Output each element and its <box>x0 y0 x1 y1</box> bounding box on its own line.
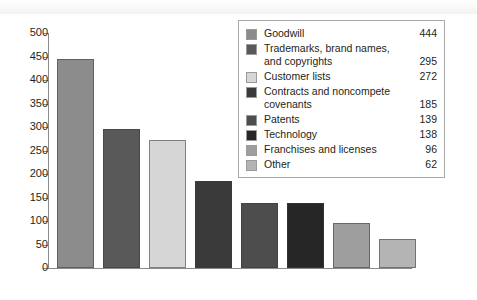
legend-swatch-icon <box>246 87 257 98</box>
y-axis-tick-label-row: 350 <box>0 98 48 109</box>
y-axis-tick-label: 100 <box>12 215 48 226</box>
legend-item-label: Franchises and licenses <box>264 143 407 156</box>
legend-item-value: 62 <box>407 158 437 171</box>
y-axis-tick-label: 200 <box>12 168 48 179</box>
legend-item-value: 444 <box>407 27 437 40</box>
legend-item-value: 295 <box>407 55 437 68</box>
legend-item: Franchises and licenses96 <box>246 143 437 156</box>
legend-item: Technology138 <box>246 128 437 141</box>
legend-item-value: 139 <box>407 113 437 126</box>
legend-item-value: 138 <box>407 128 437 141</box>
legend-item-value: 272 <box>407 70 437 83</box>
y-axis-tick-label-row: 250 <box>0 145 48 156</box>
chart-legend: Goodwill444Trademarks, brand names, and … <box>238 20 445 178</box>
bar <box>103 129 140 268</box>
bar <box>195 181 232 268</box>
legend-item-label: Trademarks, brand names, and copyrights <box>264 42 407 68</box>
chart-figure: 050100150200250300350400450500 Goodwill4… <box>0 0 477 300</box>
legend-item-label: Technology <box>264 128 407 141</box>
legend-item-label: Patents <box>264 113 407 126</box>
y-axis-line <box>48 33 49 269</box>
legend-swatch-icon <box>246 115 257 126</box>
y-axis-tick-label: 450 <box>12 51 48 62</box>
legend-item: Other62 <box>246 158 437 171</box>
legend-item-label: Customer lists <box>264 70 407 83</box>
legend-item: Goodwill444 <box>246 27 437 40</box>
bar <box>287 203 324 268</box>
legend-swatch-icon <box>246 160 257 171</box>
legend-swatch-icon <box>246 72 257 83</box>
y-axis-tick-label-row: 0 <box>0 262 48 273</box>
legend-item: Customer lists272 <box>246 70 437 83</box>
y-axis-tick-label-row: 150 <box>0 192 48 203</box>
y-axis-tick-label: 50 <box>12 239 48 250</box>
y-axis-tick-label: 400 <box>12 74 48 85</box>
legend-item-value: 96 <box>407 143 437 156</box>
bar <box>241 203 278 268</box>
bar <box>149 140 186 268</box>
legend-rows: Goodwill444Trademarks, brand names, and … <box>246 27 437 171</box>
legend-item-label: Goodwill <box>264 27 407 40</box>
legend-item: Trademarks, brand names, and copyrights2… <box>246 42 437 68</box>
legend-item: Contracts and noncompete covenants185 <box>246 85 437 111</box>
legend-item-value: 185 <box>407 98 437 111</box>
y-axis-tick-label: 500 <box>12 27 48 38</box>
y-axis-tick-label: 150 <box>12 192 48 203</box>
legend-swatch-icon <box>246 130 257 141</box>
bar <box>333 223 370 268</box>
legend-item-label: Other <box>264 158 407 171</box>
y-axis-tick-label-row: 100 <box>0 215 48 226</box>
y-axis-tick-label-row: 300 <box>0 121 48 132</box>
y-axis-tick-label: 300 <box>12 121 48 132</box>
y-axis-tick-label: 0 <box>12 262 48 273</box>
legend-item: Patents139 <box>246 113 437 126</box>
bar <box>57 59 94 268</box>
y-axis-tick-label-row: 200 <box>0 168 48 179</box>
x-axis-line <box>48 268 412 269</box>
y-axis-tick-label-row: 500 <box>0 27 48 38</box>
legend-item-label: Contracts and noncompete covenants <box>264 85 407 111</box>
bar <box>379 239 416 268</box>
y-axis-tick-label-row: 50 <box>0 239 48 250</box>
y-axis-tick-label-row: 400 <box>0 74 48 85</box>
y-axis-tick-label: 250 <box>12 145 48 156</box>
y-axis-tick-label-row: 450 <box>0 51 48 62</box>
y-axis-tick-label: 350 <box>12 98 48 109</box>
legend-swatch-icon <box>246 29 257 40</box>
legend-swatch-icon <box>246 44 257 55</box>
legend-swatch-icon <box>246 145 257 156</box>
